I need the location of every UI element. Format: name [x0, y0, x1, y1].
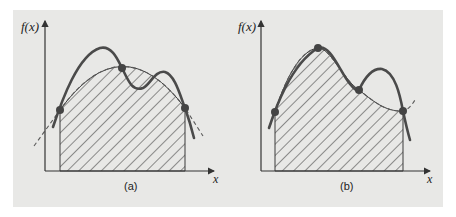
node-point-b-2 — [314, 44, 322, 52]
x-axis-label-b: x — [427, 172, 432, 187]
y-axis-label-a: f(x) — [21, 19, 39, 35]
panel-b — [261, 21, 430, 171]
hatched-area-a — [60, 66, 185, 171]
node-point-a-2 — [118, 64, 126, 72]
node-point-a-1 — [56, 106, 64, 114]
node-point-b-1 — [271, 108, 279, 116]
panel-a — [34, 21, 214, 171]
x-axis-label-a: x — [213, 172, 218, 187]
node-point-a-3 — [181, 104, 189, 112]
figure-svg — [0, 0, 456, 217]
node-point-b-4 — [399, 107, 407, 115]
node-point-b-3 — [355, 86, 363, 94]
panel-caption-b: (b) — [340, 180, 353, 192]
y-axis-label-b: f(x) — [238, 19, 256, 35]
panel-caption-a: (a) — [124, 180, 137, 192]
